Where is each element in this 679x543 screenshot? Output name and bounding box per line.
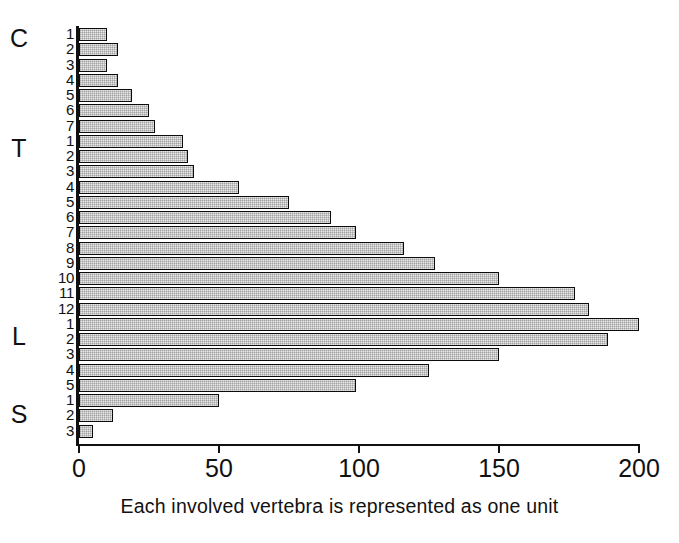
bar-t5 [79, 196, 289, 209]
x-tick-mark-0 [78, 444, 80, 453]
bar-t3 [79, 165, 194, 178]
y-tick-label-t9: 9 [40, 256, 74, 269]
y-tick-label-s3: 3 [40, 424, 74, 437]
y-tick-label-t12: 12 [40, 302, 74, 315]
bar-l4 [79, 364, 429, 377]
x-tick-label-0: 0 [72, 454, 86, 482]
y-tick-label-t4: 4 [40, 180, 74, 193]
bar-t10 [79, 272, 499, 285]
y-tick-label-t2: 2 [40, 149, 74, 162]
bar-c3 [79, 59, 107, 72]
y-tick-label-s2: 2 [40, 408, 74, 421]
y-tick-label-c4: 4 [40, 73, 74, 86]
x-tick-label-150: 150 [478, 454, 520, 482]
region-label-c: C [0, 28, 38, 48]
bar-t6 [79, 211, 331, 224]
y-tick-label-l5: 5 [40, 378, 74, 391]
chart-caption: Each involved vertebra is represented as… [0, 494, 679, 518]
region-label-l: L [0, 326, 38, 346]
bar-l1 [79, 318, 639, 331]
bar-l2 [79, 333, 608, 346]
x-tick-label-50: 50 [205, 454, 233, 482]
bar-s3 [79, 425, 93, 438]
x-tick-mark-200 [638, 444, 640, 453]
y-tick-label-t8: 8 [40, 241, 74, 254]
x-tick-mark-150 [498, 444, 500, 453]
bar-t8 [79, 242, 404, 255]
y-tick-label-l1: 1 [40, 317, 74, 330]
x-axis-ticks: 050100150200 [0, 444, 679, 484]
bar-c7 [79, 120, 155, 133]
y-tick-label-t5: 5 [40, 195, 74, 208]
bar-l3 [79, 348, 499, 361]
y-tick-label-l2: 2 [40, 332, 74, 345]
region-label-s: S [0, 404, 38, 424]
y-tick-label-t10: 10 [40, 271, 74, 284]
bar-c4 [79, 74, 118, 87]
y-tick-label-c5: 5 [40, 88, 74, 101]
y-tick-label-c7: 7 [40, 119, 74, 132]
y-tick-label-c1: 1 [40, 27, 74, 40]
x-tick-label-200: 200 [618, 454, 660, 482]
bar-t7 [79, 226, 356, 239]
x-tick-label-100: 100 [338, 454, 380, 482]
bar-t9 [79, 257, 435, 270]
y-tick-label-t6: 6 [40, 210, 74, 223]
region-label-group: C T L S [0, 28, 40, 440]
y-tick-label-t11: 11 [40, 286, 74, 299]
bar-series [79, 28, 639, 440]
bar-t2 [79, 150, 188, 163]
x-tick-mark-50 [218, 444, 220, 453]
bar-c6 [79, 104, 149, 117]
bar-c5 [79, 89, 132, 102]
bar-s2 [79, 409, 113, 422]
bar-t4 [79, 181, 239, 194]
y-tick-label-l3: 3 [40, 347, 74, 360]
x-tick-mark-100 [358, 444, 360, 453]
y-axis-tick-labels: 123456712345678910111212345123 [38, 28, 74, 440]
y-tick-label-c2: 2 [40, 42, 74, 55]
bar-c2 [79, 43, 118, 56]
region-label-t: T [0, 138, 38, 158]
bar-t1 [79, 135, 183, 148]
y-tick-label-t7: 7 [40, 225, 74, 238]
y-tick-label-t3: 3 [40, 164, 74, 177]
bar-l5 [79, 379, 356, 392]
bar-s1 [79, 394, 219, 407]
bar-t11 [79, 287, 575, 300]
bar-t12 [79, 303, 589, 316]
y-tick-label-l4: 4 [40, 363, 74, 376]
plot-area [79, 28, 639, 440]
y-tick-label-c6: 6 [40, 103, 74, 116]
y-tick-label-c3: 3 [40, 58, 74, 71]
chart-figure: C T L S 123456712345678910111212345123 0… [0, 0, 679, 543]
y-tick-label-t1: 1 [40, 134, 74, 147]
y-tick-label-s1: 1 [40, 393, 74, 406]
bar-c1 [79, 28, 107, 41]
